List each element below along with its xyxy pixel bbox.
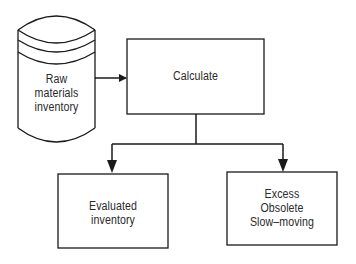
excess-obsolete-label: Excess Obsolete Slow–moving: [235, 187, 329, 229]
arrowhead-evaluated: [107, 160, 117, 173]
raw-materials-line-2: materials: [24, 86, 89, 100]
calculate-line-1: Calculate: [137, 69, 253, 83]
raw-materials-label: Raw materials inventory: [24, 72, 89, 114]
raw-materials-line-1: Raw: [24, 72, 89, 86]
calculate-label: Calculate: [137, 69, 253, 83]
excess-line-2: Obsolete: [235, 201, 329, 215]
excess-line-3: Slow–moving: [235, 215, 329, 229]
arrowhead-excess: [278, 159, 288, 172]
raw-materials-line-3: inventory: [24, 100, 89, 114]
evaluated-line-2: inventory: [66, 213, 160, 227]
excess-line-1: Excess: [235, 187, 329, 201]
edge-calculate-split: [112, 114, 283, 144]
evaluated-inventory-label: Evaluated inventory: [66, 199, 160, 227]
evaluated-line-1: Evaluated: [66, 199, 160, 213]
